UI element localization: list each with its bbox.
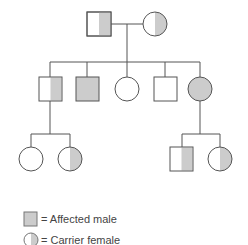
individual-III-4 [208,147,232,171]
pedigree-chart [0,0,248,245]
unaffected-female-icon [115,77,139,101]
individual-III-2 [58,147,82,171]
legend-affected-male-symbol [24,212,37,226]
individual-II-2 [76,77,99,101]
individual-II-3 [115,77,139,101]
individual-II-1 [39,77,62,101]
legend-carrier-female-symbol [24,233,38,245]
individual-III-1 [19,147,43,171]
shaded-square-icon [24,212,37,226]
individual-II-4 [154,77,177,101]
individual-III-3 [170,147,193,171]
individual-I-2 [143,12,167,36]
affected-female-icon [188,77,212,101]
unaffected-female-icon [19,147,43,171]
affected-male-icon [76,77,99,101]
legend-carrier-female-label: = Carrier female [41,234,120,245]
legend-affected-male-label: = Affected male [41,213,117,226]
individual-I-1 [87,12,111,36]
unaffected-male-icon [154,77,177,101]
individual-II-5 [188,77,212,101]
